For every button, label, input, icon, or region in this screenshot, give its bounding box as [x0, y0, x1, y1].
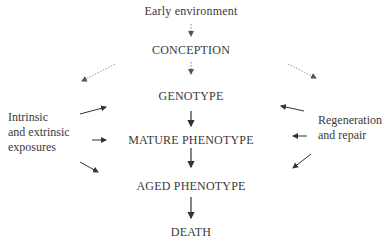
right-factor-label: Regeneration and repair — [318, 113, 382, 143]
arrow-conception-to-right — [288, 64, 316, 78]
node-genotype: GENOTYPE — [159, 89, 224, 104]
right-factor-line1: Regeneration — [318, 113, 382, 128]
arrow-left-to-genotype — [80, 107, 106, 114]
node-mature-phenotype: MATURE PHENOTYPE — [128, 133, 254, 148]
arrow-left-to-aged — [80, 162, 98, 172]
left-factor-label: Intrinsic and extrinsic exposures — [8, 110, 70, 155]
node-early-environment: Early environment — [144, 4, 237, 19]
arrow-right-to-genotype — [281, 106, 304, 111]
node-conception: CONCEPTION — [152, 43, 230, 58]
arrow-right-to-aged — [293, 154, 311, 168]
left-factor-line3: exposures — [8, 140, 70, 155]
node-death: DEATH — [171, 225, 211, 240]
arrow-conception-to-left — [82, 64, 115, 81]
left-factor-line2: and extrinsic — [8, 125, 70, 140]
right-factor-line2: and repair — [318, 128, 382, 143]
left-factor-line1: Intrinsic — [8, 110, 70, 125]
node-aged-phenotype: AGED PHENOTYPE — [136, 179, 245, 194]
